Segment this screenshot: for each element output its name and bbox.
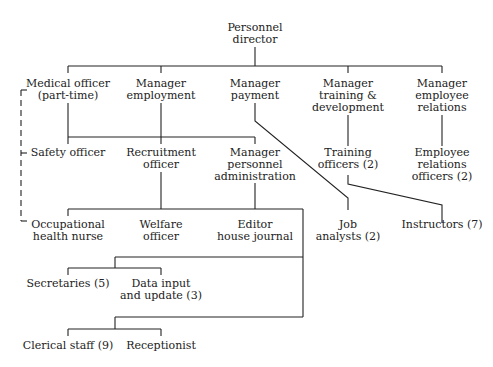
dotted-relationship-line: [21, 90, 27, 221]
node-recruitment-officer: Recruitment officer: [126, 147, 196, 171]
node-personnel-director: Personnel director: [227, 22, 282, 46]
node-clerical-staff: Clerical staff (9): [23, 340, 113, 352]
node-manager-employment: Manager employment: [127, 78, 196, 102]
node-manager-employee-relations: Manager employee relations: [415, 78, 468, 114]
node-training-officers: Training officers (2): [318, 147, 379, 171]
node-secretaries: Secretaries (5): [27, 278, 110, 290]
node-instructors: Instructors (7): [401, 219, 482, 231]
org-chart: Personnel director Medical officer (part…: [0, 0, 493, 367]
node-receptionist: Receptionist: [126, 340, 196, 352]
node-safety-officer: Safety officer: [31, 147, 106, 159]
node-editor-house-journal: Editor house journal: [217, 219, 293, 243]
node-employee-relations-officers: Employee relations officers (2): [412, 147, 473, 183]
connector-lines: [0, 0, 493, 367]
node-manager-personnel-administration: Manager personnel administration: [214, 147, 296, 183]
node-manager-payment: Manager payment: [230, 78, 280, 102]
node-occupational-health-nurse: Occupational health nurse: [31, 219, 105, 243]
node-data-input: Data input and update (3): [120, 278, 202, 302]
node-manager-training: Manager training & development: [312, 78, 384, 114]
node-medical-officer: Medical officer (part-time): [26, 78, 110, 102]
node-welfare-officer: Welfare officer: [140, 219, 183, 243]
node-job-analysts: Job analysts (2): [316, 219, 381, 243]
